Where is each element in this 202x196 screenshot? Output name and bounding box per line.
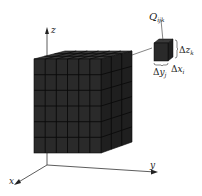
cell-label-leader	[161, 20, 163, 41]
dz-brace-icon	[175, 40, 178, 58]
x-axis-line	[17, 165, 47, 183]
cell-side-face	[168, 39, 173, 61]
dx-label: Δxi	[171, 64, 185, 75]
y-axis-label: y	[149, 160, 156, 170]
grid-diagram: z y x	[0, 0, 202, 196]
grid-cube	[34, 51, 132, 153]
dy-label: Δyj	[153, 67, 167, 79]
y-axis-arrow-icon	[151, 170, 158, 175]
cube-side-face	[101, 51, 132, 153]
dy-brace-icon	[154, 63, 168, 66]
z-axis-label: z	[50, 25, 56, 35]
cell-label: Qijk	[149, 11, 165, 24]
x-axis-arrow-icon	[14, 179, 21, 185]
cell-Qijk: Qijk Δzk Δyj Δxi	[149, 11, 194, 79]
cell-front-face	[154, 43, 168, 61]
dz-label: Δzk	[179, 45, 194, 56]
y-axis-line	[47, 165, 155, 172]
z-axis-arrow-icon	[45, 27, 49, 34]
x-axis-label: x	[9, 176, 14, 186]
leader-line	[132, 48, 152, 55]
